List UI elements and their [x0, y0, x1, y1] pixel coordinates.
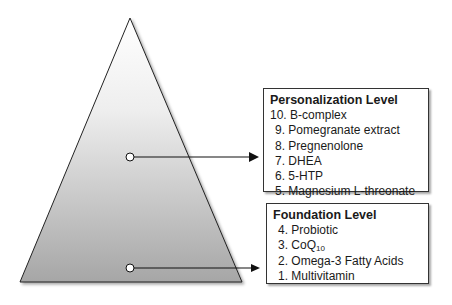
- list-item: 1. Multivitamin: [273, 269, 422, 284]
- list-item: 7. DHEA: [270, 154, 422, 169]
- foundation-level-box: Foundation Level 4. Probiotic 3. CoQ10 2…: [266, 203, 429, 284]
- list-item: 3. CoQ10: [273, 238, 422, 253]
- personalization-title: Personalization Level: [270, 93, 422, 108]
- list-item: 5. Magnesium L-threonate: [270, 184, 422, 199]
- level-marker-circle: [126, 153, 134, 161]
- list-item: 10. B-complex: [270, 108, 422, 123]
- arrow-right-icon: [249, 152, 259, 162]
- list-item: 4. Probiotic: [273, 223, 422, 238]
- list-item: 2. Omega-3 Fatty Acids: [273, 254, 422, 269]
- arrow-right-icon: [251, 264, 260, 272]
- list-item: 6. 5-HTP: [270, 169, 422, 184]
- personalization-level-box: Personalization Level 10. B-complex 9. P…: [263, 88, 429, 192]
- list-item: 8. Pregnenolone: [270, 139, 422, 154]
- pyramid-triangle: [20, 18, 242, 282]
- foundation-title: Foundation Level: [273, 208, 422, 223]
- level-marker-circle: [126, 264, 134, 272]
- list-item: 9. Pomegranate extract: [270, 123, 422, 138]
